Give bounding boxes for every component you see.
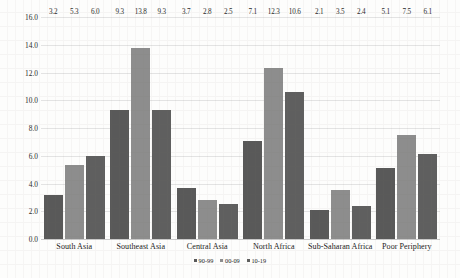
x-axis-tick-label: Sub-Saharan Africa [307, 242, 374, 251]
legend-swatch-icon [194, 259, 197, 262]
bar-column: 7.1 [243, 17, 262, 239]
y-axis-tick-label: 0.0 [0, 235, 38, 244]
bar: 6.1 [418, 154, 437, 239]
legend-label: 00-09 [225, 257, 240, 264]
x-axis-tick-label: Southeast Asia [108, 242, 175, 251]
legend-label: 90-99 [199, 257, 214, 264]
bar: 3.7 [177, 188, 196, 239]
bar: 6.0 [86, 156, 105, 239]
bar-group: 3.72.82.5 [174, 17, 241, 239]
bar-value-label: 10.6 [289, 8, 301, 16]
bar-groups: 3.25.36.09.313.89.33.72.82.57.112.310.62… [41, 17, 440, 239]
bar-group: 7.112.310.6 [241, 17, 308, 239]
bar: 7.5 [397, 135, 416, 239]
legend-swatch-icon [220, 259, 223, 262]
gridline [41, 239, 440, 240]
bar-column: 5.1 [376, 17, 395, 239]
bar: 5.3 [65, 165, 84, 239]
x-axis-tick-label: North Africa [241, 242, 308, 251]
bar: 13.8 [131, 48, 150, 239]
y-axis-tick-label: 4.0 [0, 179, 38, 188]
bar-value-label: 3.5 [336, 8, 345, 16]
y-axis-labels: 0.02.04.06.08.010.012.014.016.0 [0, 17, 38, 239]
legend-swatch-icon [247, 259, 250, 262]
bar-column: 5.3 [65, 17, 84, 239]
bar-column: 2.4 [352, 17, 371, 239]
x-axis-tick-label: Central Asia [174, 242, 241, 251]
y-axis-tick-label: 14.0 [0, 40, 38, 49]
bar-group: 9.313.89.3 [108, 17, 175, 239]
y-axis-tick-label: 2.0 [0, 207, 38, 216]
bar: 7.1 [243, 141, 262, 240]
y-axis-tick-label: 10.0 [0, 96, 38, 105]
bar: 5.1 [376, 168, 395, 239]
x-axis-tick-label: Poor Periphery [374, 242, 441, 251]
bar-column: 6.1 [418, 17, 437, 239]
bar: 3.2 [44, 195, 63, 239]
bar: 10.6 [285, 92, 304, 239]
bar-value-label: 3.2 [49, 8, 58, 16]
bar-value-label: 2.4 [357, 8, 366, 16]
bar-value-label: 5.3 [70, 8, 79, 16]
bar: 2.8 [198, 200, 217, 239]
legend-item[interactable]: 90-99 [194, 257, 213, 264]
bar: 2.4 [352, 206, 371, 239]
chart-legend: 90-9900-0910-19 [0, 257, 460, 264]
legend-label: 10-19 [251, 257, 266, 264]
bar-value-label: 7.5 [402, 8, 411, 16]
x-axis-category-labels: South AsiaSoutheast AsiaCentral AsiaNort… [41, 242, 440, 251]
bar: 2.5 [219, 204, 238, 239]
y-axis-tick-label: 16.0 [0, 13, 38, 22]
bar-value-label: 3.7 [182, 8, 191, 16]
y-axis-tick-label: 8.0 [0, 124, 38, 133]
bar: 3.5 [331, 190, 350, 239]
bar-column: 10.6 [285, 17, 304, 239]
bar-value-label: 9.3 [115, 8, 124, 16]
bar: 2.1 [310, 210, 329, 239]
plot-area: 3.25.36.09.313.89.33.72.82.57.112.310.62… [41, 17, 440, 239]
bar-value-label: 6.1 [423, 8, 432, 16]
bar-column: 13.8 [131, 17, 150, 239]
bar-column: 2.1 [310, 17, 329, 239]
grouped-bar-chart: 0.02.04.06.08.010.012.014.016.0 3.25.36.… [0, 0, 460, 278]
bar-group: 5.17.56.1 [374, 17, 441, 239]
bar-column: 12.3 [264, 17, 283, 239]
bar: 9.3 [110, 110, 129, 239]
bar: 12.3 [264, 68, 283, 239]
bar-column: 9.3 [152, 17, 171, 239]
bar-column: 3.7 [177, 17, 196, 239]
x-axis-tick-label: South Asia [41, 242, 108, 251]
bar-value-label: 2.5 [224, 8, 233, 16]
bar-value-label: 13.8 [135, 8, 147, 16]
bar-value-label: 6.0 [91, 8, 100, 16]
bar-group: 2.13.52.4 [307, 17, 374, 239]
bar-value-label: 12.3 [268, 8, 280, 16]
bar-column: 2.5 [219, 17, 238, 239]
bar-column: 3.2 [44, 17, 63, 239]
bar-value-label: 5.1 [381, 8, 390, 16]
bar-value-label: 2.1 [315, 8, 324, 16]
bar-value-label: 9.3 [157, 8, 166, 16]
y-axis-tick-label: 6.0 [0, 151, 38, 160]
legend-item[interactable]: 00-09 [220, 257, 239, 264]
bar-column: 3.5 [331, 17, 350, 239]
bar-column: 2.8 [198, 17, 217, 239]
legend-item[interactable]: 10-19 [247, 257, 266, 264]
bar-column: 7.5 [397, 17, 416, 239]
bar-column: 9.3 [110, 17, 129, 239]
bar-group: 3.25.36.0 [41, 17, 108, 239]
bar-value-label: 2.8 [203, 8, 212, 16]
bar: 9.3 [152, 110, 171, 239]
bar-value-label: 7.1 [248, 8, 257, 16]
y-axis-tick-label: 12.0 [0, 68, 38, 77]
bar-column: 6.0 [86, 17, 105, 239]
